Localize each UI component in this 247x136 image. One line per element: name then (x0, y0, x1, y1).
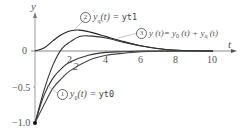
x-tick-4: 4 (103, 55, 108, 65)
y-tick-neg05-label: −0.5 (12, 83, 30, 93)
leader-line-1 (47, 85, 57, 93)
annotation-3: 3y (t)= y0 (t) + yq (t) (136, 28, 218, 39)
annotation-2-number: 2 (80, 12, 91, 23)
x-tick-8: 8 (173, 55, 178, 65)
annotation-3-rest: (t) (207, 28, 218, 38)
curve-unlabeled (35, 51, 213, 123)
annotation-1-rest: (t) = (77, 88, 98, 99)
annotation-3-text: y (t)= y (149, 28, 176, 38)
annotation-2: 2yq(t) = yt1 (80, 12, 137, 24)
y-axis-label: y (31, 1, 36, 12)
annotation-2-code: yt1 (122, 12, 137, 22)
x-tick-2: 2 (67, 55, 72, 65)
annotation-1-code: yt0 (99, 89, 114, 99)
x-tick-6: 6 (138, 55, 143, 65)
curve-numeral: 2 (73, 61, 79, 72)
leader-line-3 (118, 33, 138, 38)
y-axis-arrow-icon (33, 12, 37, 18)
start-point-marker (33, 121, 37, 125)
annotation-3-mid: (t) + y (179, 28, 204, 38)
x-axis-arrow-icon (231, 49, 237, 53)
annotation-1: 1y0(t) = yt0 (57, 89, 114, 101)
annotation-3-number: 3 (136, 28, 147, 39)
annotation-2-rest: (t) = (100, 11, 121, 22)
y-tick-neg10-label: −1.0 (12, 118, 30, 128)
curve-sum (35, 36, 213, 123)
curves-group (35, 30, 213, 123)
x-axis-label: t (228, 39, 231, 50)
annotation-1-number: 1 (57, 89, 68, 100)
origin-label: 0 (22, 46, 27, 56)
curve-yt0 (35, 51, 213, 123)
x-tick-10: 10 (207, 55, 217, 65)
